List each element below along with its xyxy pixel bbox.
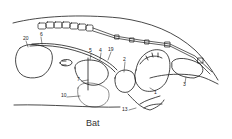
organ-20 [16, 44, 53, 78]
label-6: 6 [40, 32, 43, 37]
organ-2 [115, 70, 136, 92]
label-1: 1 [154, 90, 157, 95]
dorsal-outline [13, 16, 218, 80]
organ-10 [78, 83, 109, 107]
figure-caption: Bat [86, 118, 100, 128]
label-19: 19 [108, 47, 114, 52]
label-7: 7 [77, 77, 80, 82]
label-2: 2 [123, 57, 126, 62]
label-5: 5 [89, 48, 92, 53]
label-13: 13 [122, 107, 128, 112]
label-4: 4 [99, 48, 102, 53]
label-20: 20 [23, 36, 29, 41]
leader-lines [26, 37, 186, 110]
ventral-outline [14, 105, 120, 107]
bat-anatomy-figure: 20 6 5 4 19 2 7 10 1 13 3 Bat [0, 0, 232, 139]
label-10: 10 [61, 93, 67, 98]
bat-anatomy-drawing [0, 0, 232, 139]
label-3: 3 [183, 82, 186, 87]
